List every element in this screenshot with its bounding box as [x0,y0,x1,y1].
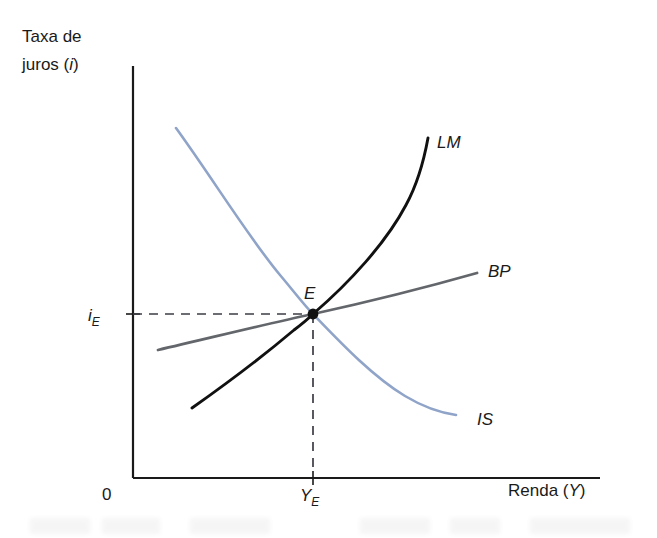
x-tick-label-ye: YE [300,486,320,509]
x-axis-label-suffix: ) [580,481,586,500]
y-axis-label-line1: Taxa de [22,27,82,46]
is-curve-label: IS [477,410,494,429]
bp-curve-label: BP [488,262,511,281]
equilibrium-point-label: E [304,284,316,303]
origin-label: 0 [102,485,111,504]
chart-tick-marks [126,314,313,485]
lm-curve-label: LM [437,133,461,152]
x-axis-label: Renda (Y) [508,481,586,500]
chart-svg: Taxa de juros (i) Renda (Y) 0 iE YE E LM… [0,0,657,538]
y-axis-label-suffix: ) [73,55,79,74]
y-tick-label-ie: iE [88,306,101,329]
is-curve [176,128,456,415]
chart-axes [133,66,600,478]
x-tick-label-subscript: E [311,495,320,509]
y-axis-label-line2: juros (i) [21,55,79,74]
y-axis-label-prefix: juros ( [21,55,70,74]
equilibrium-point-marker [308,309,319,320]
lm-curve [192,138,428,408]
is-lm-bp-figure: Taxa de juros (i) Renda (Y) 0 iE YE E LM… [0,0,657,538]
x-axis-label-prefix: Renda ( [508,481,569,500]
y-tick-label-subscript: E [92,315,101,329]
